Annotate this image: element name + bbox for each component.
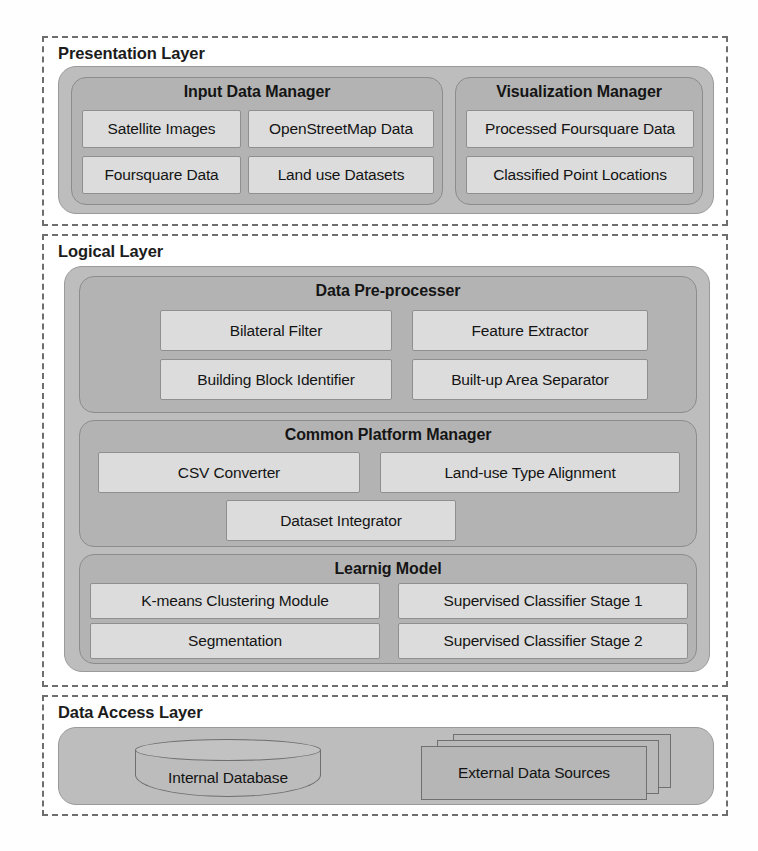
component-built-up-area-separator[interactable]: Built-up Area Separator [412, 359, 648, 400]
component-dataset-integrator[interactable]: Dataset Integrator [226, 500, 456, 541]
component-openstreetmap-data[interactable]: OpenStreetMap Data [248, 110, 434, 148]
component-bilateral-filter[interactable]: Bilateral Filter [160, 310, 392, 351]
logical-layer-title: Logical Layer [58, 242, 163, 261]
component-land-use-datasets[interactable]: Land use Datasets [248, 156, 434, 194]
learning-model-title: Learnig Model [80, 560, 696, 578]
component-feature-extractor[interactable]: Feature Extractor [412, 310, 648, 351]
common-platform-manager: Common Platform Manager CSV Converter La… [79, 420, 697, 547]
component-segmentation[interactable]: Segmentation [90, 623, 380, 659]
external-data-sources-store[interactable]: External Data Sources [421, 734, 681, 804]
data-access-layer-title: Data Access Layer [58, 703, 202, 722]
component-supervised-classifier-stage-1[interactable]: Supervised Classifier Stage 1 [398, 583, 688, 619]
component-satellite-images[interactable]: Satellite Images [82, 110, 241, 148]
internal-database-label: Internal Database [135, 763, 321, 793]
data-preprocesser-title: Data Pre-processer [80, 282, 696, 300]
data-access-group-container: Internal Database External Data Sources [58, 727, 714, 805]
internal-database-store[interactable]: Internal Database [135, 739, 321, 797]
visualization-manager: Visualization Manager Processed Foursqua… [455, 77, 703, 205]
external-data-sources-label: External Data Sources [421, 746, 647, 800]
component-land-use-type-alignment[interactable]: Land-use Type Alignment [380, 452, 680, 493]
presentation-layer: Presentation Layer Input Data Manager Sa… [42, 36, 728, 226]
component-building-block-identifier[interactable]: Building Block Identifier [160, 359, 392, 400]
component-csv-converter[interactable]: CSV Converter [98, 452, 360, 493]
component-classified-point-locations[interactable]: Classified Point Locations [466, 156, 694, 194]
input-data-manager-title: Input Data Manager [72, 83, 442, 101]
presentation-layer-title: Presentation Layer [58, 44, 205, 63]
cylinder-top-ellipse [135, 739, 321, 761]
visualization-manager-title: Visualization Manager [456, 83, 702, 101]
data-access-layer: Data Access Layer Internal Database Exte… [42, 695, 728, 816]
learning-model-manager: Learnig Model K-means Clustering Module … [79, 554, 697, 664]
component-supervised-classifier-stage-2[interactable]: Supervised Classifier Stage 2 [398, 623, 688, 659]
data-preprocesser-manager: Data Pre-processer Bilateral Filter Feat… [79, 276, 697, 413]
common-platform-manager-title: Common Platform Manager [80, 426, 696, 444]
component-foursquare-data[interactable]: Foursquare Data [82, 156, 241, 194]
input-data-manager: Input Data Manager Satellite Images Open… [71, 77, 443, 205]
component-processed-foursquare-data[interactable]: Processed Foursquare Data [466, 110, 694, 148]
component-kmeans-clustering-module[interactable]: K-means Clustering Module [90, 583, 380, 619]
architecture-diagram: Presentation Layer Input Data Manager Sa… [0, 0, 758, 851]
logical-group-container: Data Pre-processer Bilateral Filter Feat… [64, 266, 710, 672]
logical-layer: Logical Layer Data Pre-processer Bilater… [42, 234, 728, 687]
presentation-group-container: Input Data Manager Satellite Images Open… [58, 66, 714, 214]
